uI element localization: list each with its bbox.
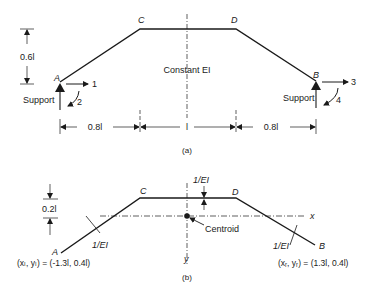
figure-b: C D A B 0.2l 1/EI 1/EI 1/EI Centroid x y… xyxy=(17,175,349,282)
support-left xyxy=(55,83,88,110)
centroid-dot xyxy=(184,213,190,219)
top-intensity-label: 1/EI xyxy=(193,175,210,185)
node-label-d-b: D xyxy=(232,187,239,197)
node-label-c-a: C xyxy=(138,15,145,25)
right-intensity-label: 1/EI xyxy=(273,241,290,251)
node-label-a-a: A xyxy=(53,73,60,83)
x-axis-label: x xyxy=(309,211,315,221)
y-axis-label: y xyxy=(183,254,189,264)
constant-ei-label: Constant EI xyxy=(163,65,210,75)
caption-a: (a) xyxy=(182,146,192,155)
offset-dim-label: 0.2l xyxy=(42,204,57,214)
node-label-b-a: B xyxy=(313,70,319,80)
node-label-b-b: B xyxy=(319,241,325,251)
node-label-c-b: C xyxy=(140,186,147,196)
span-dim-right: 0.8l xyxy=(264,122,279,132)
centroid-label: Centroid xyxy=(205,224,239,234)
dof-2-label: 2 xyxy=(77,97,82,107)
span-dim-left: 0.8l xyxy=(88,122,103,132)
node-label-a-b: A xyxy=(51,247,58,257)
left-coords-label: (xₗ, yₗ) = (-1.3l, 0.4l) xyxy=(17,258,90,268)
node-label-d-a: D xyxy=(231,15,238,25)
support-left-label: Support xyxy=(23,95,55,105)
right-coords-label: (xᵣ, yᵣ) = (1.3l, 0.4l) xyxy=(278,258,349,268)
caption-b: (b) xyxy=(182,273,192,282)
dof-4-label: 4 xyxy=(336,95,341,105)
support-right xyxy=(311,81,348,108)
left-intensity-label: 1/EI xyxy=(92,240,109,250)
dof-1-label: 1 xyxy=(92,79,97,89)
dof-3-label: 3 xyxy=(351,77,356,87)
support-right-label: Support xyxy=(283,93,315,103)
right-intensity-tick xyxy=(290,225,297,245)
span-dim-middle: l xyxy=(186,122,188,132)
centroid-arrow xyxy=(190,218,204,225)
frame-diagram: C D A B Constant EI 0.6l Support Support… xyxy=(0,0,382,293)
figure-a: C D A B Constant EI 0.6l Support Support… xyxy=(20,14,356,155)
height-dim-label: 0.6l xyxy=(20,52,35,62)
